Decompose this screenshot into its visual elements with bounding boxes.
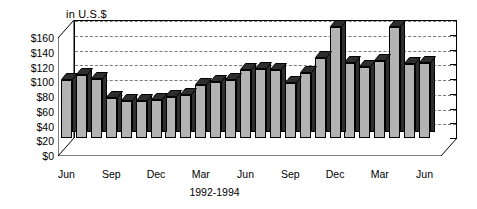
bar <box>404 64 415 138</box>
right-axis-tick <box>450 20 457 21</box>
bar-front-face <box>359 67 370 138</box>
bar-side-face <box>87 69 92 132</box>
bar <box>210 82 221 138</box>
x-axis-tick-label: Jun <box>416 168 433 180</box>
bar-top-face <box>389 20 407 28</box>
bar-side-face <box>370 61 375 132</box>
bar-side-face <box>430 57 435 132</box>
y-axis-tick-label: $60 <box>36 106 54 118</box>
y-axis-tick-label: $20 <box>36 135 54 147</box>
bar <box>180 95 191 138</box>
x-axis-tick-label: Jun <box>58 168 75 180</box>
bar-side-face <box>236 74 241 132</box>
bar-front-face <box>270 70 281 138</box>
bar-top-face <box>61 73 79 81</box>
bar <box>374 61 385 138</box>
bar-front-face <box>285 83 296 138</box>
x-axis-tick-label: Mar <box>192 168 210 180</box>
bar-front-face <box>76 75 87 138</box>
bar-side-face <box>355 57 360 132</box>
plot-area <box>58 20 457 156</box>
right-axis-tick <box>450 109 457 110</box>
bar-front-face <box>151 100 162 138</box>
bar-side-face <box>415 58 420 132</box>
x-axis-title: 1992-1994 <box>0 186 477 198</box>
y-axis-tick-label: $80 <box>36 91 54 103</box>
bar <box>285 83 296 138</box>
bar-front-face <box>61 80 72 138</box>
bar <box>76 75 87 138</box>
bar-front-face <box>91 79 102 138</box>
bar-side-face <box>72 74 77 132</box>
y-axis-tick-label: $160 <box>31 32 54 44</box>
bar-side-face <box>206 79 211 132</box>
bar-front-face <box>374 61 385 138</box>
bar-front-face <box>165 97 176 138</box>
bar-top-face <box>106 91 124 99</box>
bar-side-face <box>385 55 390 132</box>
bar-top-face <box>300 66 318 74</box>
y-axis-tick-label: $100 <box>31 76 54 88</box>
bar <box>106 98 117 138</box>
right-axis-tick <box>450 50 457 51</box>
bar <box>165 97 176 138</box>
bar-front-face <box>136 101 147 138</box>
bar-front-face <box>210 82 221 138</box>
axis-unit-note: in U.S.$ <box>66 8 107 20</box>
x-axis-labels: JunSepDecMarJunSepDecMarJun <box>0 168 477 184</box>
bar <box>359 67 370 138</box>
bar-side-face <box>341 21 346 132</box>
bar <box>389 27 400 138</box>
x-axis-tick-label: Sep <box>102 168 121 180</box>
bar <box>344 63 355 138</box>
bar-top-face <box>240 63 258 71</box>
bar-top-face <box>285 76 303 84</box>
bar-side-face <box>266 63 271 132</box>
x-axis-tick-label: Sep <box>281 168 300 180</box>
bar <box>330 27 341 138</box>
bar-top-face <box>344 56 362 64</box>
bar-front-face <box>121 101 132 138</box>
x-axis-tick-label: Dec <box>147 168 166 180</box>
x-axis-tick-label: Mar <box>371 168 389 180</box>
right-axis-tick <box>450 138 457 139</box>
right-axis-tick <box>450 123 457 124</box>
bar-front-face <box>389 27 400 138</box>
y-axis-tick-label: $140 <box>31 47 54 59</box>
bar-side-face <box>311 67 316 132</box>
bar <box>151 100 162 138</box>
bar <box>255 69 266 138</box>
right-axis-tick <box>450 79 457 80</box>
bar <box>61 80 72 138</box>
bar-top-face <box>330 20 348 28</box>
right-axis-tick <box>450 94 457 95</box>
bar <box>121 101 132 138</box>
bar-front-face <box>255 69 266 138</box>
right-axis-tick <box>450 64 457 65</box>
bar-top-face <box>315 51 333 59</box>
bar-side-face <box>400 21 405 132</box>
bar-top-face <box>404 57 422 65</box>
bar-front-face <box>106 98 117 138</box>
bar-side-face <box>326 52 331 132</box>
bar-front-face <box>419 63 430 138</box>
bar-side-face <box>251 64 256 132</box>
bar-series <box>58 20 457 138</box>
bar-top-face <box>195 78 213 86</box>
bar-front-face <box>344 63 355 138</box>
bar <box>225 80 236 138</box>
bar-front-face <box>404 64 415 138</box>
bar <box>270 70 281 138</box>
bar <box>91 79 102 138</box>
bar <box>136 101 147 138</box>
bar-side-face <box>221 76 226 132</box>
bar-front-face <box>225 80 236 138</box>
y-axis-tick-label: $40 <box>36 121 54 133</box>
y-axis-tick-label: $0 <box>42 150 54 162</box>
x-axis-tick-label: Jun <box>237 168 254 180</box>
bar-side-face <box>102 73 107 132</box>
right-axis-tick <box>450 35 457 36</box>
bar-front-face <box>330 27 341 138</box>
y-axis-tick-label: $120 <box>31 62 54 74</box>
bar-front-face <box>180 95 191 138</box>
